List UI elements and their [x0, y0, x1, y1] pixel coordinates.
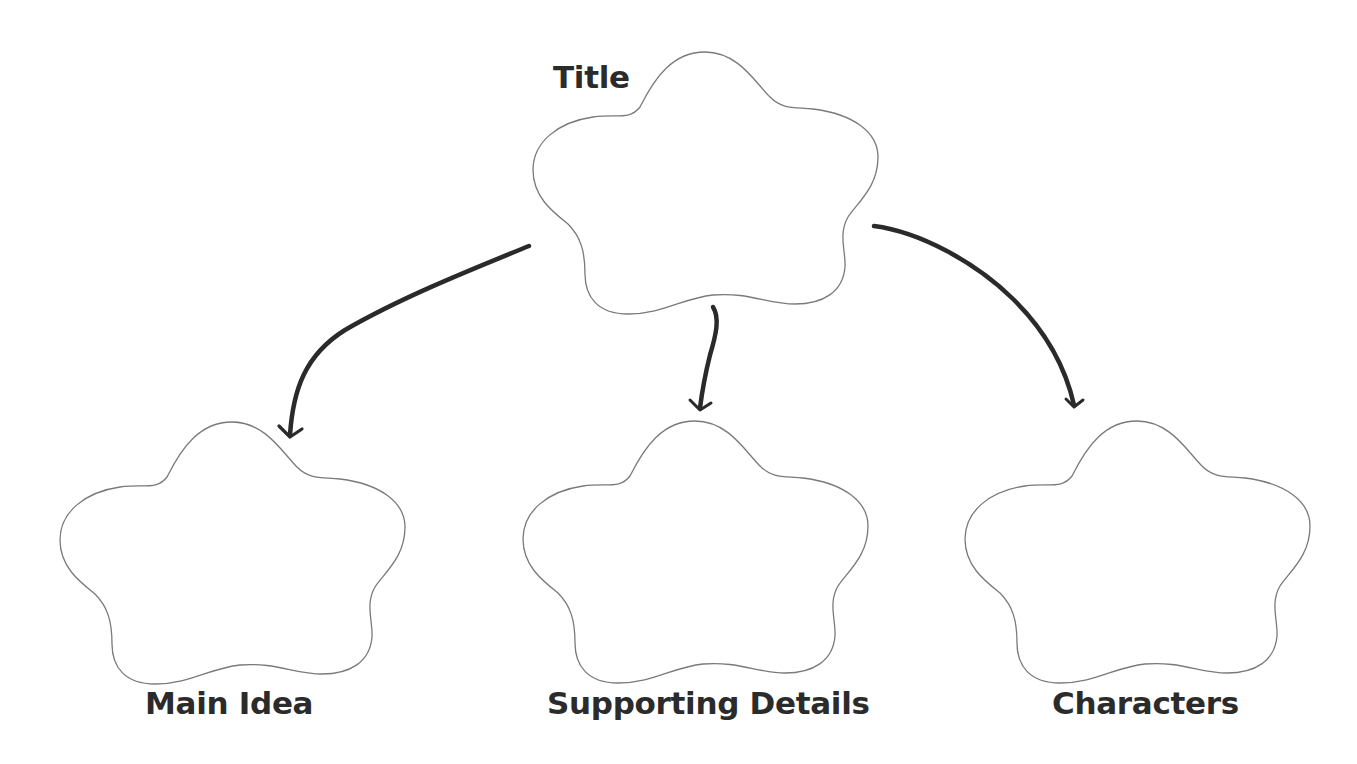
characters-node[interactable] [965, 421, 1310, 683]
supporting-details-label: Supporting Details [547, 688, 870, 719]
flower-shape [60, 422, 405, 684]
arrow-to-supporting-details [690, 307, 717, 410]
main-idea-node[interactable] [60, 422, 405, 684]
arrow-to-main-idea [279, 246, 529, 437]
main-idea-label: Main Idea [145, 688, 313, 719]
characters-label: Characters [1052, 688, 1239, 719]
graphic-organizer: Title Main Idea Supporting Details Chara… [0, 0, 1357, 764]
flower-shape [523, 421, 868, 683]
arrow-to-characters [874, 226, 1083, 407]
supporting-details-node[interactable] [523, 421, 868, 683]
diagram-canvas [0, 0, 1357, 764]
flower-shape [965, 421, 1310, 683]
title-label: Title [553, 62, 630, 93]
